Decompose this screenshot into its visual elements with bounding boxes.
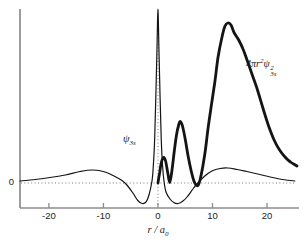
orbital-wavefunction-figure: ψ3s 4πr2ψ23s r / a0 0 -20-1001020 — [0, 0, 304, 242]
psi-sup-sub-stack: 23s — [270, 66, 276, 77]
plot-canvas — [0, 0, 304, 242]
x-tick-label: 0 — [144, 210, 172, 222]
x-tick-label: -10 — [89, 210, 117, 222]
x-tick-label: 10 — [198, 210, 226, 222]
psi-subscript: 3s — [130, 139, 136, 147]
psi-symbol: ψ — [263, 58, 269, 69]
x-axis-denominator-subscript: 0 — [165, 230, 169, 238]
x-tick-label: 20 — [253, 210, 281, 222]
y-axis-zero-label: 0 — [1, 176, 14, 188]
x-axis-label: r / a0 — [123, 224, 193, 240]
x-tick-label: -20 — [35, 210, 63, 222]
x-axis-separator: / — [152, 224, 160, 235]
psi-subscript: 3s — [270, 72, 276, 78]
radial-distribution-curve-label: 4πr2ψ23s — [246, 55, 276, 77]
curve-radial_distribution_3s — [158, 23, 297, 186]
curve-psi_3s — [20, 9, 295, 204]
psi-3s-curve-label: ψ3s — [123, 133, 136, 149]
